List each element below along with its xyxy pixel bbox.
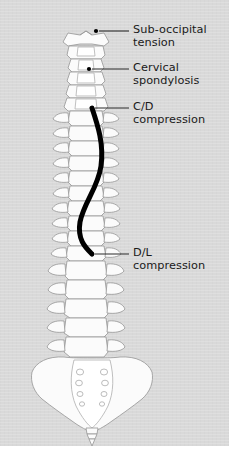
panel-bottom-margin (0, 446, 229, 457)
coccyx (86, 428, 98, 446)
marker-cd (90, 106, 94, 110)
marker-sub-occipital (94, 29, 98, 33)
atlas-vertebra (63, 31, 109, 46)
sacrum (31, 357, 152, 432)
marker-cervical (87, 67, 91, 71)
cervical-vertebrae (64, 59, 108, 111)
figure-root: Sub-occipital tension Cervical spondylos… (0, 0, 229, 457)
lumbar-vertebrae (47, 261, 125, 357)
axis-vertebra (67, 46, 105, 59)
label-sub-occipital-tension: Sub-occipital tension (133, 24, 207, 49)
thoracic-vertebrae (51, 111, 121, 261)
label-cd-compression: C/D compression (133, 101, 205, 126)
marker-dl (90, 252, 94, 256)
label-dl-compression: D/L compression (133, 247, 205, 272)
label-cervical-spondylosis: Cervical spondylosis (133, 62, 200, 87)
